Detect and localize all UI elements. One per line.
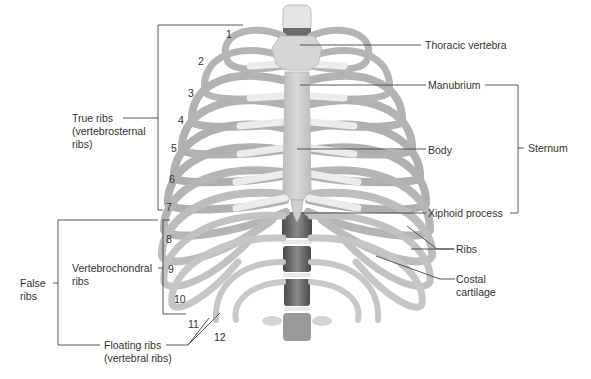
label-floating-ribs-1: Floating ribs bbox=[104, 339, 161, 352]
thoracic-cage-diagram: 1 2 3 4 5 6 7 8 9 10 11 12 Thoracic vert… bbox=[0, 0, 591, 379]
label-sternum: Sternum bbox=[528, 142, 568, 155]
rib-number-11: 11 bbox=[188, 318, 199, 330]
label-xiphoid-process: Xiphoid process bbox=[428, 207, 503, 220]
label-vertebrochondral-2: ribs bbox=[72, 275, 89, 288]
label-thoracic-vertebra: Thoracic vertebra bbox=[425, 39, 507, 52]
label-costal-cartilage-1: Costal bbox=[456, 273, 486, 286]
label-costal-cartilage-2: cartilage bbox=[456, 286, 496, 299]
rib-number-6: 6 bbox=[169, 173, 175, 185]
label-ribs: Ribs bbox=[456, 243, 477, 256]
label-false-ribs-1: False bbox=[20, 277, 46, 290]
rib-number-2: 2 bbox=[198, 55, 204, 67]
label-manubrium: Manubrium bbox=[428, 79, 481, 92]
rib-cage-illustration bbox=[0, 0, 591, 379]
label-true-ribs-1: True ribs bbox=[72, 112, 113, 125]
rib-number-9: 9 bbox=[168, 263, 174, 275]
label-body: Body bbox=[428, 144, 452, 157]
rib-number-3: 3 bbox=[188, 87, 194, 99]
rib-number-4: 4 bbox=[178, 114, 184, 126]
label-vertebrochondral-1: Vertebrochondral bbox=[72, 262, 152, 275]
rib-number-12: 12 bbox=[214, 331, 226, 343]
spine-lower-shape bbox=[262, 212, 332, 341]
rib-number-8: 8 bbox=[166, 233, 172, 245]
rib-number-7: 7 bbox=[166, 201, 172, 213]
label-true-ribs-3: ribs) bbox=[72, 138, 92, 151]
label-false-ribs-2: ribs bbox=[20, 290, 37, 303]
rib-number-5: 5 bbox=[171, 142, 177, 154]
label-floating-ribs-2: (vertebral ribs) bbox=[104, 352, 172, 365]
label-true-ribs-2: (vertebrosternal bbox=[72, 125, 146, 138]
rib-number-1: 1 bbox=[226, 28, 232, 40]
thoracic-vertebra-shape bbox=[283, 5, 311, 38]
rib-number-10: 10 bbox=[174, 293, 186, 305]
